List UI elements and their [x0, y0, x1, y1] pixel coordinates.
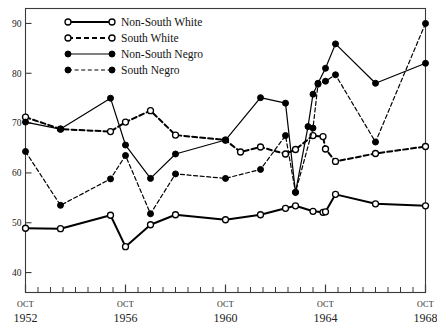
data-point-filled — [423, 60, 429, 66]
data-point-filled — [173, 151, 179, 157]
data-point-open — [223, 217, 229, 223]
data-point-filled — [108, 95, 114, 101]
data-point-open — [293, 203, 299, 209]
data-point-filled — [373, 80, 379, 86]
data-point-open — [283, 151, 289, 157]
data-point-open — [238, 149, 244, 155]
data-point-filled — [423, 20, 429, 26]
x-axis-month-label: OCT — [417, 300, 434, 309]
data-point-filled — [333, 41, 339, 47]
legend-marker — [65, 67, 71, 73]
data-point-open — [310, 208, 316, 214]
data-point-open — [293, 147, 299, 153]
data-point-open — [123, 119, 129, 125]
y-tick-label: 60 — [12, 168, 22, 178]
data-point-open — [173, 212, 179, 218]
data-point-filled — [223, 137, 229, 143]
legend-marker — [109, 19, 115, 25]
legend-label: South Negro — [121, 64, 180, 77]
data-point-filled — [58, 126, 64, 132]
data-point-filled — [123, 152, 129, 158]
data-point-filled — [23, 119, 29, 125]
legend-label: South White — [121, 32, 179, 44]
data-point-open — [423, 203, 429, 209]
x-axis-month-label: OCT — [117, 300, 134, 309]
data-point-filled — [258, 95, 264, 101]
data-point-open — [173, 132, 179, 138]
data-point-filled — [293, 189, 299, 195]
data-point-filled — [148, 175, 154, 181]
data-point-filled — [223, 175, 229, 181]
x-axis-month-label: OCT — [217, 300, 234, 309]
chart-background — [0, 0, 437, 329]
data-point-filled — [373, 139, 379, 145]
legend-marker — [65, 35, 71, 41]
data-point-filled — [315, 81, 321, 87]
data-point-filled — [58, 202, 64, 208]
data-point-open — [373, 150, 379, 156]
data-point-open — [108, 212, 114, 218]
y-tick-label: 70 — [12, 118, 22, 128]
data-point-filled — [323, 65, 329, 71]
legend-marker — [109, 51, 115, 57]
x-axis-month-label: OCT — [17, 300, 34, 309]
legend-marker — [109, 35, 115, 41]
x-axis-year-label: 1956 — [114, 311, 138, 325]
y-tick-label: 40 — [12, 268, 22, 278]
data-point-open — [148, 222, 154, 228]
data-point-filled — [148, 211, 154, 217]
data-point-open — [283, 205, 289, 211]
data-point-open — [123, 244, 129, 250]
data-point-open — [258, 212, 264, 218]
data-point-open — [258, 144, 264, 150]
data-point-open — [148, 108, 154, 114]
y-tick-label: 90 — [12, 19, 22, 29]
legend-label: Non-South White — [121, 16, 202, 28]
data-point-filled — [258, 166, 264, 172]
data-point-open — [108, 129, 114, 135]
legend-marker — [65, 51, 71, 57]
legend-marker — [65, 19, 71, 25]
y-tick-label: 80 — [12, 69, 22, 79]
data-point-filled — [333, 72, 339, 78]
x-axis-month-label: OCT — [317, 300, 334, 309]
data-point-filled — [283, 100, 289, 106]
data-point-filled — [23, 148, 29, 154]
x-axis-year-label: 1952 — [14, 311, 38, 325]
data-point-filled — [108, 176, 114, 182]
data-point-filled — [310, 91, 316, 97]
x-axis-year-label: 1960 — [214, 311, 238, 325]
data-point-open — [333, 158, 339, 164]
data-point-open — [23, 225, 29, 231]
data-point-filled — [173, 171, 179, 177]
y-tick-label: 50 — [12, 218, 22, 228]
data-point-filled — [323, 78, 329, 84]
data-point-open — [58, 226, 64, 232]
data-point-open — [333, 191, 339, 197]
data-point-open — [323, 146, 329, 152]
line-chart: 405060708090 Non-South WhiteSouth WhiteN… — [0, 0, 437, 329]
data-point-filled — [123, 142, 129, 148]
x-axis-year-label: 1964 — [314, 311, 338, 325]
data-point-open — [423, 144, 429, 150]
data-point-open — [320, 134, 326, 140]
data-point-filled — [310, 125, 316, 131]
data-point-open — [323, 209, 329, 215]
x-axis-year-label: 1968 — [414, 311, 437, 325]
data-point-filled — [283, 133, 289, 139]
legend-label: Non-South Negro — [121, 48, 203, 61]
legend-marker — [109, 67, 115, 73]
chart-container: 405060708090 Non-South WhiteSouth WhiteN… — [0, 0, 437, 329]
data-point-open — [373, 201, 379, 207]
